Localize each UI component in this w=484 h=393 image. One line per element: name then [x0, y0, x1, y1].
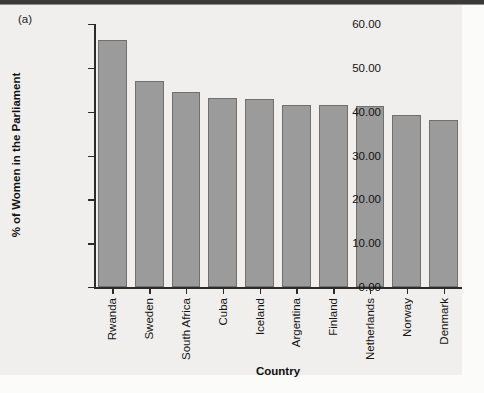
x-axis-tick	[186, 288, 187, 294]
bar	[98, 40, 127, 287]
y-axis-tick-label: 40.00	[352, 106, 381, 118]
x-axis-category-label: South Africa	[180, 298, 192, 360]
bar	[429, 120, 458, 287]
x-axis-tick	[112, 288, 113, 294]
figure-right-margin	[462, 5, 484, 393]
bar	[392, 115, 421, 287]
x-axis-category-label: Iceland	[254, 298, 266, 335]
y-axis-tick-label: 20.00	[352, 193, 381, 205]
plot-area	[94, 24, 462, 287]
x-axis-category-label: Finland	[327, 298, 339, 336]
x-axis-category-label: Sweden	[143, 298, 155, 340]
y-axis-tick	[88, 24, 94, 25]
x-axis-tick	[296, 288, 297, 294]
x-axis-title: Country	[94, 365, 462, 377]
panel-label: (a)	[18, 13, 32, 25]
y-axis-tick	[88, 68, 94, 69]
x-axis-tick	[370, 288, 371, 294]
y-axis-tick-label: 10.00	[352, 237, 381, 249]
x-axis-category-label: Rwanda	[106, 298, 118, 340]
y-axis-tick	[88, 199, 94, 200]
figure-panel: (a) % of Women in the Parliament 0.0010.…	[0, 0, 484, 393]
y-axis-tick-label: 30.00	[352, 150, 381, 162]
x-axis-category-label: Cuba	[217, 298, 229, 326]
x-axis-tick	[223, 288, 224, 294]
y-axis-tick	[88, 112, 94, 113]
y-axis-tick	[88, 156, 94, 157]
x-axis-tick	[333, 288, 334, 294]
x-axis-category-label: Denmark	[438, 298, 450, 345]
bar	[319, 105, 348, 287]
y-axis-title: % of Women in the Parliament	[10, 73, 22, 238]
bar	[208, 98, 237, 287]
figure-bottom-margin	[0, 375, 484, 393]
x-axis-tick	[407, 288, 408, 294]
x-axis-tick	[260, 288, 261, 294]
y-axis-tick	[88, 287, 94, 288]
y-axis-tick-label: 60.00	[352, 18, 381, 30]
x-axis-category-label: Norway	[401, 298, 413, 337]
x-axis-category-label: Netherlands	[364, 298, 376, 360]
x-axis-tick	[149, 288, 150, 294]
bar	[135, 81, 164, 287]
y-axis-tick-label: 50.00	[352, 62, 381, 74]
bar	[282, 105, 311, 287]
x-axis-category-label: Argentina	[290, 298, 302, 347]
bar	[245, 99, 274, 287]
bar	[172, 92, 201, 287]
x-axis-tick	[444, 288, 445, 294]
y-axis-tick	[88, 243, 94, 244]
